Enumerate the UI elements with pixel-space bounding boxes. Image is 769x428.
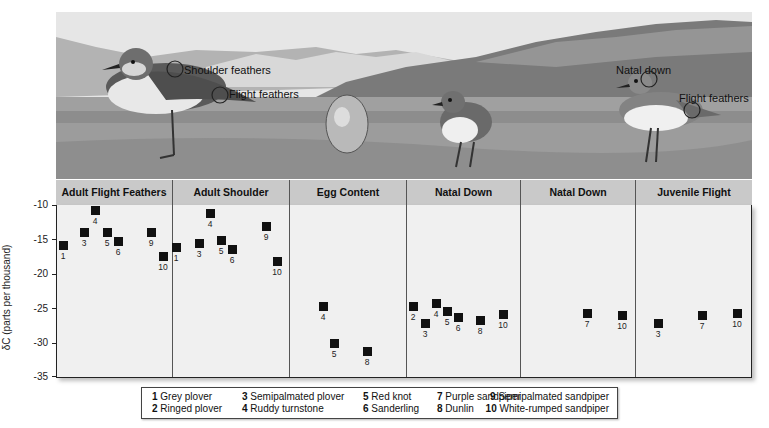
data-point-marker xyxy=(262,222,271,231)
data-point-label: 7 xyxy=(577,319,597,329)
data-point-marker xyxy=(733,309,742,318)
data-point-marker xyxy=(432,299,441,308)
y-tick xyxy=(52,274,57,275)
data-point-label: 4 xyxy=(313,312,333,322)
y-axis-label: δC (parts per thousand) xyxy=(1,228,12,368)
panel-divider xyxy=(172,205,173,377)
data-point-label: 8 xyxy=(357,357,377,367)
panel-header-juvenile-flight: Juvenile Flight Feathers xyxy=(636,180,752,205)
legend-item: 6 Sanderling xyxy=(363,403,419,414)
panel-header-row: Adult Flight Feathers Adult Shoulder Fea… xyxy=(56,180,752,205)
landscape-drawing xyxy=(56,12,752,179)
data-point-marker xyxy=(499,310,508,319)
annotation-flight-feathers-juvenile: Flight feathers xyxy=(679,92,749,104)
y-tick xyxy=(52,239,57,240)
data-point-marker xyxy=(195,239,204,248)
data-point-marker xyxy=(409,302,418,311)
data-point-marker xyxy=(228,245,237,254)
data-point-label: 2 xyxy=(403,312,423,322)
panel-header-egg: Egg Content xyxy=(290,180,406,205)
data-point-marker xyxy=(443,307,452,316)
data-point-marker xyxy=(476,316,485,325)
panel-header-adult-flight: Adult Flight Feathers xyxy=(56,180,172,205)
data-point-label: 3 xyxy=(189,249,209,259)
panel-divider xyxy=(406,205,407,377)
y-tick-label: -25 xyxy=(22,303,48,314)
legend-item: 5 Red knot xyxy=(363,391,411,402)
data-point-marker xyxy=(363,347,372,356)
annotation-shoulder-feathers: Shoulder feathers xyxy=(184,64,271,76)
y-tick-label: -35 xyxy=(22,371,48,382)
y-tick xyxy=(52,376,57,377)
panel-divider xyxy=(289,205,290,377)
data-point-marker xyxy=(618,311,627,320)
legend-item: 3 Semipalmated plover xyxy=(242,391,344,402)
y-tick xyxy=(52,308,57,309)
annotation-flight-feathers-adult: Flight feathers xyxy=(229,88,299,100)
data-point-label: 10 xyxy=(727,319,747,329)
data-point-marker xyxy=(172,243,181,252)
y-tick xyxy=(52,343,57,344)
data-point-marker xyxy=(273,257,282,266)
data-point-label: 1 xyxy=(53,251,73,261)
panel-header-adult-shoulder: Adult Shoulder Feathers xyxy=(173,180,289,205)
data-point-label: 3 xyxy=(415,329,435,339)
data-point-marker xyxy=(80,228,89,237)
data-point-marker xyxy=(421,319,430,328)
data-point-label: 8 xyxy=(470,326,490,336)
data-point-marker xyxy=(217,236,226,245)
bird-landscape-illustration: Shoulder feathers Flight feathers Natal … xyxy=(56,12,752,179)
y-tick-label: -15 xyxy=(22,234,48,245)
data-point-label: 6 xyxy=(448,323,468,333)
data-point-label: 9 xyxy=(256,232,276,242)
data-point-marker xyxy=(330,339,339,348)
data-point-marker xyxy=(114,237,123,246)
data-point-label: 1 xyxy=(166,253,186,263)
data-point-marker xyxy=(654,319,663,328)
data-point-marker xyxy=(91,206,100,215)
data-point-label: 6 xyxy=(222,255,242,265)
data-point-label: 10 xyxy=(612,321,632,331)
panel-divider xyxy=(520,205,521,377)
y-tick-label: -20 xyxy=(22,268,48,279)
data-point-label: 10 xyxy=(493,320,513,330)
legend-item: 10 White-rumped sandpiper xyxy=(486,403,609,414)
data-point-marker xyxy=(103,228,112,237)
data-point-label: 3 xyxy=(74,238,94,248)
data-point-label: 4 xyxy=(85,216,105,226)
data-point-marker xyxy=(319,302,328,311)
panel-header-natal-juveniles: Natal Down (Juveniles) xyxy=(521,180,635,205)
data-point-label: 9 xyxy=(141,238,161,248)
data-point-marker xyxy=(206,209,215,218)
panel-header-natal-hatchlings: Natal Down (Hatchlings) xyxy=(407,180,520,205)
legend-item: 4 Ruddy turnstone xyxy=(242,403,324,414)
data-point-marker xyxy=(698,311,707,320)
species-legend: 1 Grey plover 2 Ringed plover 3 Semipalm… xyxy=(141,387,618,419)
data-point-label: 7 xyxy=(692,321,712,331)
data-point-label: 10 xyxy=(267,267,287,277)
annotation-natal-down: Natal down xyxy=(616,64,671,76)
data-point-marker xyxy=(59,241,68,250)
data-point-label: 6 xyxy=(108,247,128,257)
data-point-label: 3 xyxy=(648,329,668,339)
y-tick-label: -10 xyxy=(22,199,48,210)
y-tick xyxy=(52,205,57,206)
panel-divider xyxy=(635,205,636,377)
data-point-marker xyxy=(583,309,592,318)
data-point-marker xyxy=(454,313,463,322)
data-point-marker xyxy=(147,228,156,237)
y-tick-label: -30 xyxy=(22,337,48,348)
legend-item: 1 Grey plover xyxy=(152,391,212,402)
legend-item: 2 Ringed plover xyxy=(152,403,222,414)
legend-item: 8 Dunlin xyxy=(437,403,474,414)
legend-item: 9 Semipalmated sandpiper xyxy=(490,391,609,402)
data-point-label: 4 xyxy=(200,219,220,229)
data-point-label: 5 xyxy=(324,349,344,359)
plot-area: 1345691013456910458234568107103710 xyxy=(56,205,752,378)
